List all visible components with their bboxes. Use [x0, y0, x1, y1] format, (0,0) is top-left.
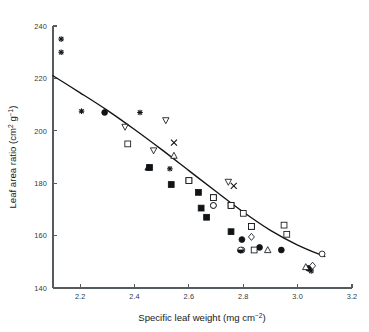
- x-tick-label: 3.0: [292, 292, 303, 301]
- data-point-open-down-triangles: [150, 148, 156, 154]
- x-tick-label: 2.4: [129, 292, 140, 301]
- data-point-open-squares: [228, 203, 234, 209]
- data-point-star-markers: [58, 36, 64, 42]
- data-point-filled-squares: [168, 182, 174, 188]
- data-point-filled-circles: [102, 110, 108, 116]
- data-point-cross-markers: [231, 183, 237, 189]
- data-point-filled-circles: [257, 244, 263, 250]
- data-point-filled-squares: [198, 205, 204, 211]
- data-point-open-down-triangles: [163, 118, 169, 124]
- data-point-open-squares: [240, 210, 246, 216]
- data-point-filled-circles: [239, 237, 245, 243]
- data-point-open-squares: [125, 141, 131, 147]
- data-point-open-squares: [186, 178, 192, 184]
- y-tick-label: 220: [34, 74, 47, 83]
- data-point-open-squares: [210, 195, 216, 201]
- y-axis-ticks: 140160180200220240: [34, 22, 57, 293]
- x-tick-label: 2.8: [238, 292, 249, 301]
- data-point-open-squares: [251, 247, 257, 253]
- data-point-half-filled-circles-half: [238, 250, 244, 253]
- data-point-cross-markers: [171, 140, 177, 146]
- data-point-open-down-triangles: [225, 179, 231, 185]
- scatter-plot-figure: 140160180200220240 2.22.42.62.83.03.2 Sp…: [0, 0, 369, 332]
- data-point-filled-squares: [196, 189, 202, 195]
- y-tick-label: 140: [34, 284, 47, 293]
- data-point-star-markers: [79, 108, 85, 114]
- chart-canvas: 140160180200220240 2.22.42.62.83.03.2 Sp…: [0, 0, 369, 332]
- data-point-open-squares: [281, 222, 287, 228]
- data-point-open-up-triangles: [171, 152, 177, 158]
- x-tick-label: 3.2: [347, 292, 358, 301]
- data-point-filled-squares: [228, 229, 234, 235]
- data-point-open-diamonds: [248, 233, 254, 240]
- data-point-star-markers: [58, 49, 64, 55]
- y-tick-label: 180: [34, 179, 47, 188]
- y-tick-label: 160: [34, 231, 47, 240]
- x-axis-title: Specific leaf weight (mg cm−2): [138, 312, 266, 323]
- data-point-star-markers: [167, 166, 173, 172]
- y-tick-label: 240: [34, 22, 47, 31]
- fitted-curve: [53, 76, 325, 257]
- x-tick-label: 2.2: [75, 292, 86, 301]
- data-point-filled-squares: [204, 214, 210, 220]
- data-point-open-squares: [284, 231, 290, 237]
- data-point-open-circles: [210, 203, 216, 209]
- data-point-open-down-triangles: [122, 124, 128, 130]
- x-axis-ticks: 2.22.42.62.83.03.2: [75, 284, 357, 301]
- y-axis-title: Leaf area ratio (cm2 g−1): [7, 106, 18, 209]
- data-point-filled-circles: [278, 247, 284, 253]
- data-point-open-up-triangles: [265, 247, 271, 253]
- x-tick-label: 2.6: [184, 292, 195, 301]
- y-tick-label: 200: [34, 127, 47, 136]
- data-point-star-markers: [137, 110, 143, 116]
- data-point-open-circles: [319, 251, 325, 257]
- data-point-open-squares: [249, 224, 255, 230]
